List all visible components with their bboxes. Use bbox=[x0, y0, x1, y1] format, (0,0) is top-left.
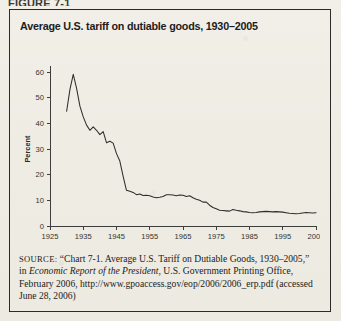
y-axis-title: Percent bbox=[23, 135, 32, 163]
source-label: SOURCE: bbox=[19, 254, 57, 264]
x-axis-ticks: 192519351945195519651975198519952005 bbox=[42, 226, 320, 241]
svg-text:1985: 1985 bbox=[241, 232, 258, 241]
chart-plot-area: 0102030405060 19251935194519551965197519… bbox=[20, 50, 320, 250]
svg-text:20: 20 bbox=[36, 170, 44, 179]
svg-text:1935: 1935 bbox=[75, 232, 92, 241]
svg-text:40: 40 bbox=[36, 119, 44, 128]
svg-text:2005: 2005 bbox=[308, 232, 320, 241]
svg-text:0: 0 bbox=[40, 222, 44, 231]
svg-text:60: 60 bbox=[36, 68, 44, 77]
svg-text:30: 30 bbox=[36, 145, 44, 154]
line-chart-svg: 0102030405060 19251935194519551965197519… bbox=[20, 50, 320, 250]
svg-text:1945: 1945 bbox=[108, 232, 125, 241]
svg-text:1955: 1955 bbox=[141, 232, 158, 241]
svg-text:50: 50 bbox=[36, 93, 44, 102]
y-axis-ticks: 0102030405060 bbox=[36, 68, 50, 231]
source-publication-title: Economic Report of the President bbox=[29, 265, 159, 276]
svg-text:1925: 1925 bbox=[42, 232, 59, 241]
svg-text:1965: 1965 bbox=[175, 232, 192, 241]
svg-text:10: 10 bbox=[36, 196, 44, 205]
chart-title: Average U.S. tariff on dutiable goods, 1… bbox=[20, 19, 258, 32]
source-note: SOURCE: “Chart 7-1. Average U.S. Tariff … bbox=[19, 253, 315, 303]
svg-text:1995: 1995 bbox=[274, 232, 291, 241]
svg-text:1975: 1975 bbox=[208, 232, 225, 241]
tariff-data-line bbox=[67, 74, 316, 213]
figure-number-label: FIGURE 7-1 bbox=[8, 0, 71, 6]
